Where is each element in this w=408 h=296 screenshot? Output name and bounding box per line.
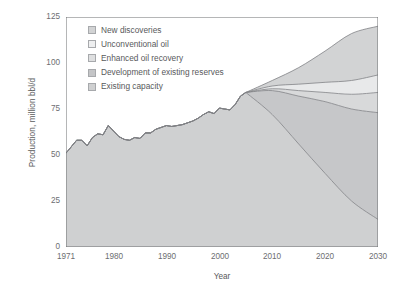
figure: Production, million bbl/d 125 100 75 50 …: [0, 0, 408, 296]
y-tick-125: 125: [34, 13, 60, 21]
legend-swatch-icon: [88, 83, 96, 91]
legend-label: Enhanced oil recovery: [101, 54, 183, 63]
legend-item-new-discoveries: New discoveries: [88, 23, 224, 37]
x-tick-1971: 1971: [46, 252, 86, 261]
legend-swatch-icon: [88, 54, 96, 62]
legend-label: New discoveries: [101, 26, 161, 35]
legend-item-enhanced-oil-recovery: Enhanced oil recovery: [88, 51, 224, 65]
y-tick-0: 0: [34, 243, 60, 251]
legend-swatch-icon: [88, 26, 96, 34]
legend: New discoveries Unconventional oil Enhan…: [88, 23, 224, 94]
y-tick-50: 50: [34, 151, 60, 159]
legend-swatch-icon: [88, 40, 96, 48]
x-tick-2020: 2020: [305, 252, 345, 261]
legend-label: Existing capacity: [101, 82, 163, 91]
y-tick-25: 25: [34, 197, 60, 205]
legend-label: Development of existing reserves: [101, 68, 224, 77]
x-tick-2000: 2000: [200, 252, 240, 261]
x-tick-2010: 2010: [252, 252, 292, 261]
y-tick-100: 100: [34, 59, 60, 67]
legend-swatch-icon: [88, 69, 96, 77]
y-tick-75: 75: [34, 105, 60, 113]
x-axis-title: Year: [66, 272, 378, 281]
legend-item-existing-capacity: Existing capacity: [88, 80, 224, 94]
x-tick-1990: 1990: [147, 252, 187, 261]
x-tick-1980: 1980: [94, 252, 134, 261]
legend-label: Unconventional oil: [101, 40, 169, 49]
legend-item-unconventional-oil: Unconventional oil: [88, 37, 224, 51]
x-tick-2030: 2030: [358, 252, 398, 261]
legend-item-development-of-existing-reserves: Development of existing reserves: [88, 66, 224, 80]
